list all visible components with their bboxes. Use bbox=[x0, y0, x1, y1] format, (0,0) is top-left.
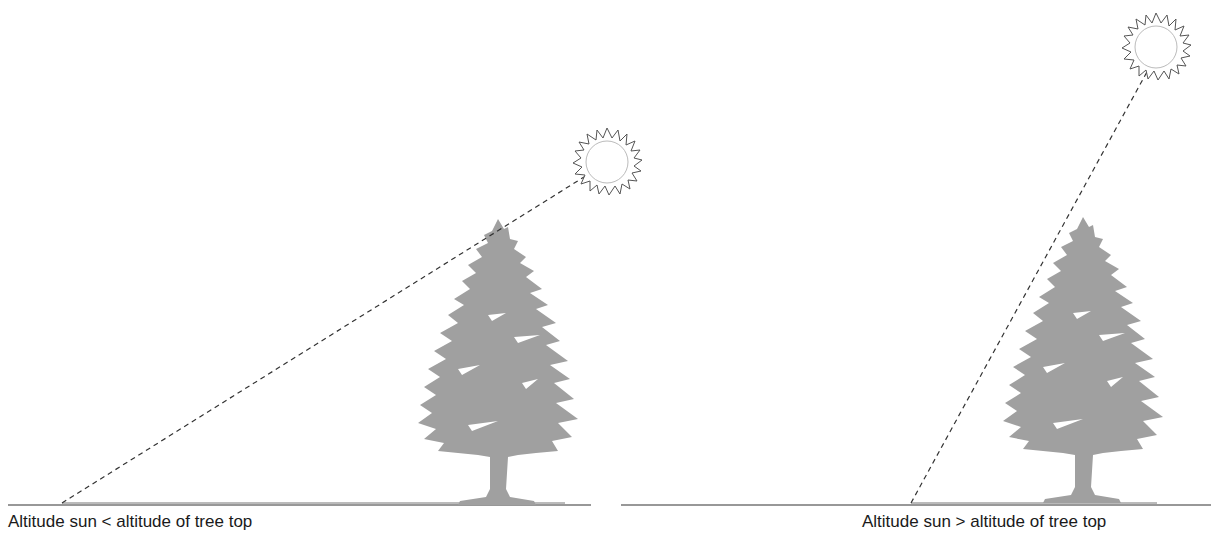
left-panel bbox=[8, 128, 642, 505]
caption-right: Altitude sun > altitude of tree top bbox=[862, 512, 1106, 532]
caption-left: Altitude sun < altitude of tree top bbox=[8, 512, 252, 532]
sun-icon-left bbox=[573, 128, 642, 195]
right-panel bbox=[621, 13, 1211, 505]
tree-left bbox=[418, 219, 578, 505]
sun-icon-right bbox=[1122, 13, 1191, 80]
tree-right bbox=[1003, 217, 1163, 503]
diagram-canvas bbox=[0, 0, 1217, 537]
